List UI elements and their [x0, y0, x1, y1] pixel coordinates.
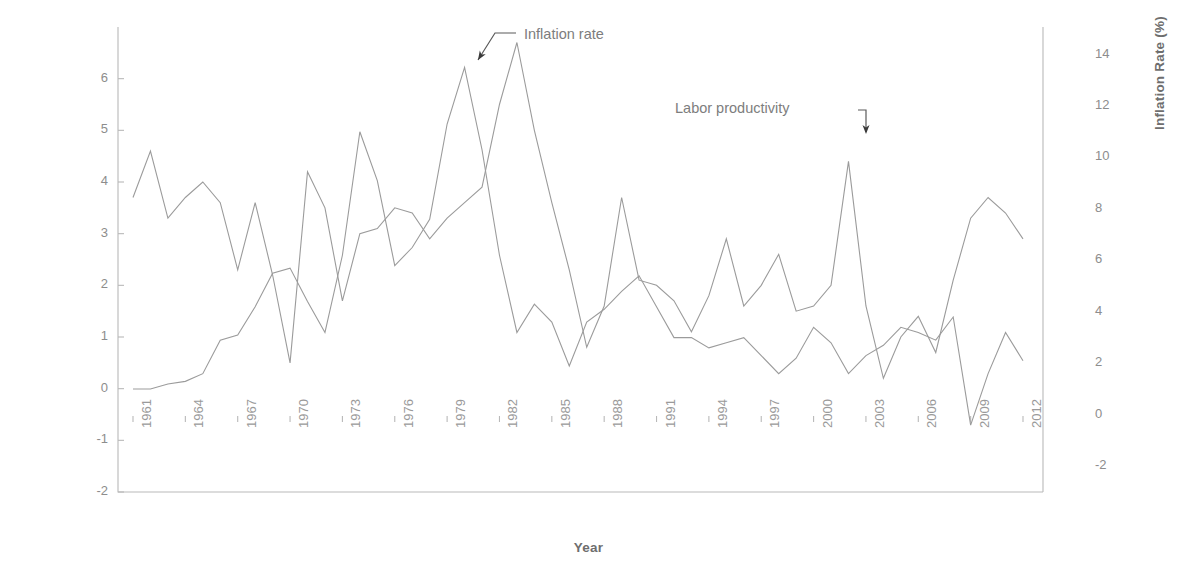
series-line-inflation-rate — [133, 67, 1023, 425]
axes-group — [118, 27, 1043, 492]
annotation-labor-productivity: Labor productivity — [675, 100, 789, 116]
inflation-arrow-head — [475, 51, 486, 62]
inflation-arrow-leader — [478, 33, 516, 60]
left-and-bottom-axis — [118, 27, 1043, 492]
series-line-labor-productivity — [133, 43, 1023, 379]
series-group — [133, 43, 1023, 426]
plot-area — [0, 0, 1177, 574]
chart-container: Growth Rate of Labor Productivity (real … — [0, 0, 1177, 574]
annotation-inflation-rate: Inflation rate — [524, 26, 604, 42]
annotation-arrows — [475, 33, 869, 134]
